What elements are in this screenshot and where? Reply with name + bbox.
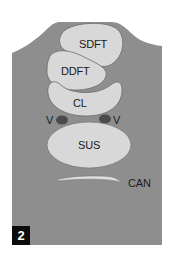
vessel-left-structure bbox=[56, 116, 68, 125]
sdft-label: SDFT bbox=[79, 38, 107, 50]
can-label: CAN bbox=[128, 177, 151, 189]
vessel-right-structure bbox=[99, 115, 111, 124]
vessel-left-label: V bbox=[46, 114, 53, 126]
sus-label: SUS bbox=[78, 139, 100, 151]
ddft-label: DDFT bbox=[61, 65, 90, 77]
vessel-right-label: V bbox=[113, 114, 120, 126]
cl-label: CL bbox=[73, 97, 87, 109]
panel-number-badge: 2 bbox=[12, 226, 30, 245]
